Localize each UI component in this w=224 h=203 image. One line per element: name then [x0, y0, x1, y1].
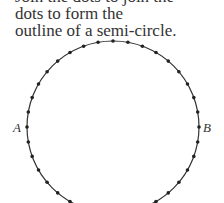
dot: [25, 125, 29, 129]
dot: [111, 39, 115, 43]
dot: [166, 191, 170, 195]
dot: [56, 59, 60, 63]
dot: [197, 125, 201, 129]
circle-diagram: A B: [0, 0, 224, 203]
label-a: A: [12, 120, 21, 135]
dot: [166, 59, 170, 63]
dot: [45, 180, 49, 184]
dot: [141, 44, 145, 48]
dot: [186, 168, 190, 172]
dot: [196, 110, 200, 114]
dot: [30, 155, 34, 159]
dot: [27, 140, 31, 144]
dot: [192, 155, 196, 159]
dot: [177, 180, 181, 184]
dot: [154, 51, 158, 55]
dot: [82, 44, 86, 48]
label-b: B: [203, 120, 211, 135]
dot: [37, 82, 41, 86]
dot: [96, 41, 100, 45]
dot: [68, 51, 72, 55]
dot: [56, 191, 60, 195]
dot: [126, 41, 130, 45]
dot: [30, 96, 34, 100]
dot: [27, 110, 31, 114]
circle-outline: [27, 41, 199, 203]
dot: [186, 82, 190, 86]
dot: [45, 70, 49, 74]
dot: [192, 96, 196, 100]
dot: [177, 70, 181, 74]
dot-group: [25, 39, 201, 203]
dot: [196, 140, 200, 144]
dot: [37, 168, 41, 172]
